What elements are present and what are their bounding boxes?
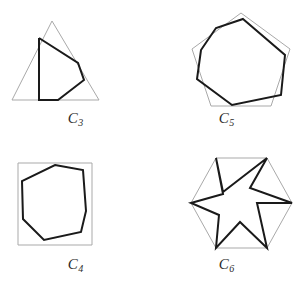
inner-polygon-c5 <box>197 19 285 105</box>
diagram-c4 <box>0 146 151 256</box>
caption-c4-index: 4 <box>78 263 83 274</box>
diagram-c3 <box>0 0 151 110</box>
caption-c3-index: 3 <box>78 117 83 128</box>
diagram-c5 <box>151 0 302 110</box>
caption-c5: C5 <box>151 110 302 128</box>
outer-pentagon <box>192 13 290 106</box>
caption-c6: C6 <box>151 256 302 274</box>
outer-triangle <box>12 21 99 100</box>
inscribed-polygons-figure: C3 C5 C4 C6 <box>0 0 302 291</box>
inner-polygon-c4 <box>22 165 86 240</box>
caption-c5-index: 5 <box>229 117 234 128</box>
caption-c6-letter: C <box>219 256 229 272</box>
inner-star-c6 <box>191 158 292 248</box>
caption-c5-letter: C <box>219 110 229 126</box>
inner-polygon-c3 <box>39 38 84 100</box>
caption-c4-letter: C <box>68 256 78 272</box>
caption-c3-letter: C <box>68 110 78 126</box>
caption-c4: C4 <box>0 256 151 274</box>
diagram-c6 <box>151 146 302 256</box>
caption-c6-index: 6 <box>229 263 234 274</box>
caption-c3: C3 <box>0 110 151 128</box>
